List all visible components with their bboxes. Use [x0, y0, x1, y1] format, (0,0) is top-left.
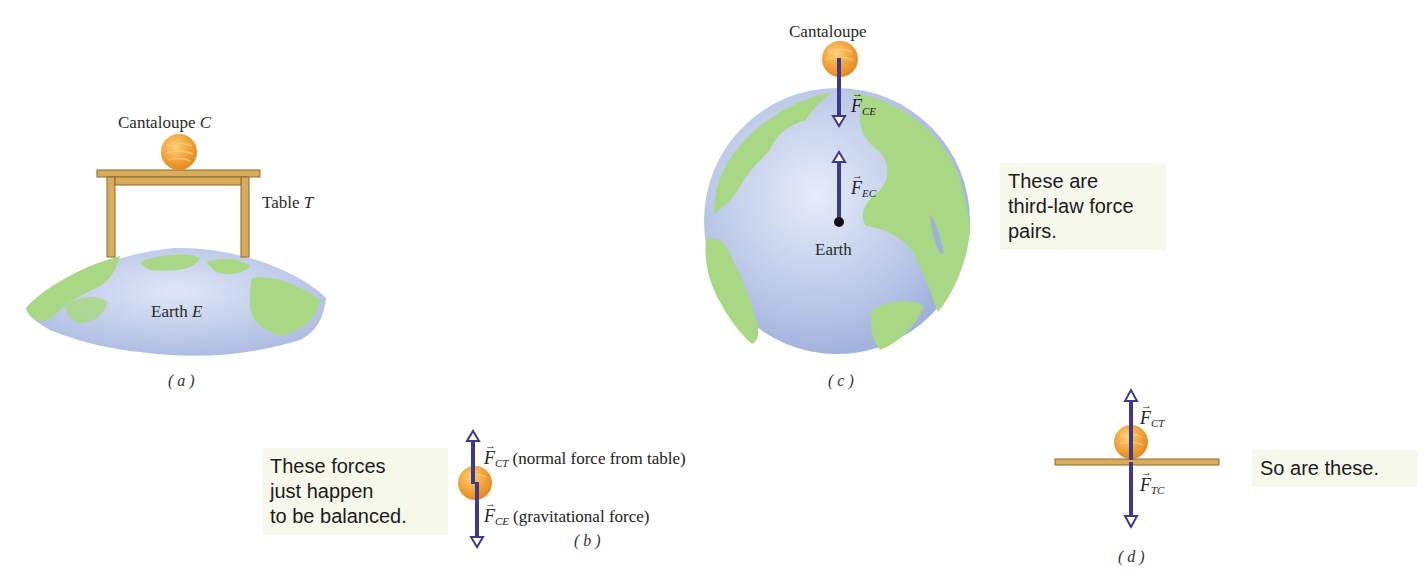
- force-subscript: EC: [862, 187, 876, 199]
- force-symbol: F: [1140, 475, 1151, 495]
- force-ce-label-c: →FCE: [851, 96, 876, 117]
- caption-b: ( b ): [574, 532, 601, 550]
- gravitational-force-description: (gravitational force): [513, 507, 649, 526]
- note-so-are-these: So are these.: [1252, 450, 1418, 487]
- vector-arrow-icon: →: [1141, 399, 1151, 411]
- cantaloupe-label-c: Cantaloupe: [789, 22, 866, 42]
- force-symbol: F: [1140, 408, 1151, 428]
- table-label: Table T: [262, 193, 313, 213]
- force-subscript: CT: [1151, 417, 1164, 429]
- free-body-diagram-d: [0, 0, 1, 1]
- note-line: to be balanced.: [270, 504, 440, 529]
- cantaloupe-symbol: C: [200, 113, 211, 132]
- earth-symbol: E: [192, 302, 202, 321]
- note-line: pairs.: [1008, 219, 1158, 244]
- note-line: These forces: [270, 454, 440, 479]
- vector-arrow-icon: →: [485, 497, 495, 509]
- cantaloupe-label-text: Cantaloupe: [118, 113, 195, 132]
- caption-d: ( d ): [1118, 548, 1145, 566]
- force-vector-ec: →FEC: [851, 178, 876, 199]
- force-vector-ct: →FCT: [484, 448, 508, 469]
- earth-label-c: Earth: [815, 240, 852, 260]
- force-ct-label-b: →FCT (normal force from table): [484, 448, 686, 469]
- table-symbol: T: [304, 193, 313, 212]
- force-subscript: CE: [862, 105, 876, 117]
- table-label-text: Table: [262, 193, 300, 212]
- force-subscript: CE: [495, 515, 509, 527]
- note-third-law-pairs: These are third-law force pairs.: [1000, 163, 1166, 250]
- caption-c: ( c ): [828, 372, 854, 390]
- vector-arrow-icon: →: [852, 169, 862, 181]
- force-symbol: F: [484, 506, 495, 526]
- force-subscript: CT: [495, 457, 508, 469]
- force-vector-ce: →FCE: [851, 96, 876, 117]
- vector-arrow-icon: →: [485, 439, 495, 451]
- earth-label-a: Earth E: [151, 302, 202, 322]
- force-vector-ct: →FCT: [1140, 408, 1164, 429]
- force-tc-label-d: →FTC: [1140, 475, 1164, 496]
- force-ct-label-d: →FCT: [1140, 408, 1164, 429]
- note-balanced-forces: These forces just happen to be balanced.: [262, 448, 448, 535]
- force-symbol: F: [851, 96, 862, 116]
- caption-a: ( a ): [168, 372, 195, 390]
- note-line: So are these.: [1260, 456, 1410, 481]
- earth-label-text: Earth: [151, 302, 188, 321]
- force-vector-tc: →FTC: [1140, 475, 1164, 496]
- cantaloupe-label-a: Cantaloupe C: [118, 113, 211, 133]
- force-ec-label-c: →FEC: [851, 178, 876, 199]
- force-symbol: F: [484, 448, 495, 468]
- note-line: These are: [1008, 169, 1158, 194]
- note-line: just happen: [270, 479, 440, 504]
- note-line: third-law force: [1008, 194, 1158, 219]
- force-subscript: TC: [1151, 484, 1164, 496]
- force-ce-label-b: →FCE (gravitational force): [484, 506, 649, 527]
- force-symbol: F: [851, 178, 862, 198]
- vector-arrow-icon: →: [1141, 466, 1151, 478]
- vector-arrow-icon: →: [852, 87, 862, 99]
- normal-force-description: (normal force from table): [512, 449, 685, 468]
- force-vector-ce: →FCE: [484, 506, 509, 527]
